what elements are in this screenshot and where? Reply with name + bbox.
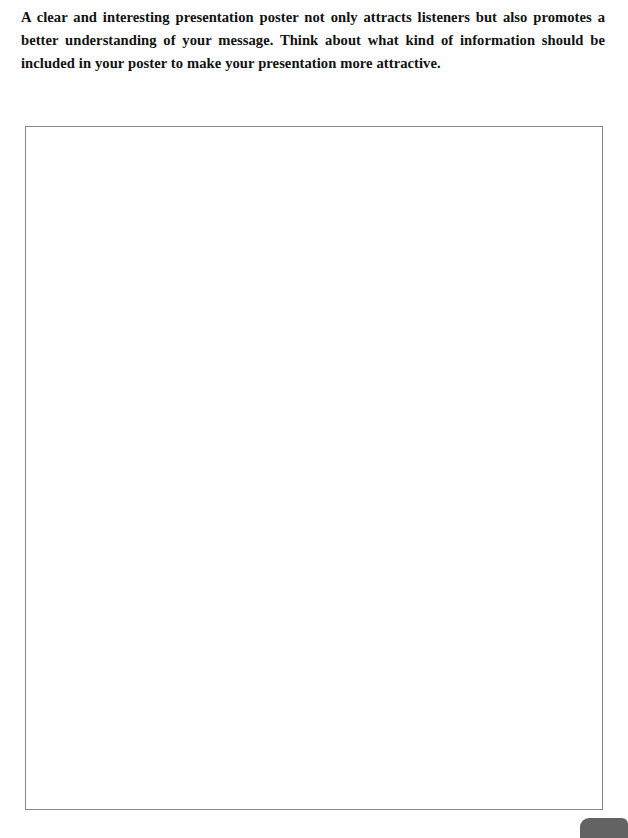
- answer-box[interactable]: [25, 126, 603, 810]
- instruction-paragraph: A clear and interesting presentation pos…: [21, 6, 605, 75]
- answer-box-writing-area[interactable]: [26, 127, 602, 809]
- bottom-right-corner-tab[interactable]: [580, 818, 628, 838]
